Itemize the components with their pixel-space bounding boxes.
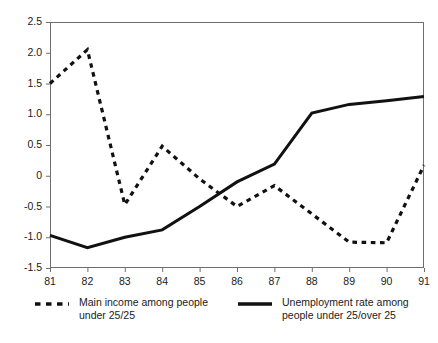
line-chart-plot [0,0,438,343]
legend-swatch-dashed-icon [34,297,70,311]
series-line-unemployment-rate [50,96,424,247]
y-tick-label: 2.5 [8,16,42,27]
series-line-main-income [50,50,424,243]
x-tick-label: 84 [147,276,177,287]
chart-legend: Main income among people under 25/25 Une… [0,296,438,343]
legend-entry-main-income: Main income among people under 25/25 [34,296,208,321]
chart-container: 2.52.01.51.00.50-0.5-1.0-1.5 81828384858… [0,0,438,343]
x-tick-label: 86 [222,276,252,287]
y-tick-label: 2.0 [8,47,42,58]
x-tick-label: 83 [110,276,140,287]
x-tick-label: 90 [372,276,402,287]
y-tick-label: 0.5 [8,139,42,150]
series-lines [50,50,424,248]
y-tick-label: -1.0 [8,231,42,242]
tick-marks [46,23,425,273]
x-tick-label: 87 [259,276,289,287]
x-tick-label: 82 [72,276,102,287]
y-tick-label: 1.5 [8,78,42,89]
x-tick-label: 85 [185,276,215,287]
x-tick-label: 91 [409,276,438,287]
y-tick-label: 0 [8,170,42,181]
legend-swatch-solid-icon [237,297,273,311]
x-tick-label: 81 [35,276,65,287]
y-tick-label: 1.0 [8,108,42,119]
legend-label-unemployment-rate: Unemployment rate among people under 25/… [282,296,409,321]
legend-label-main-income: Main income among people under 25/25 [79,296,208,321]
y-tick-label: -1.5 [8,262,42,273]
x-tick-label: 89 [334,276,364,287]
axis-frame [51,23,424,268]
x-tick-label: 88 [297,276,327,287]
legend-entry-unemployment-rate: Unemployment rate among people under 25/… [237,296,409,321]
plot-frame [51,23,424,268]
y-tick-label: -0.5 [8,201,42,212]
